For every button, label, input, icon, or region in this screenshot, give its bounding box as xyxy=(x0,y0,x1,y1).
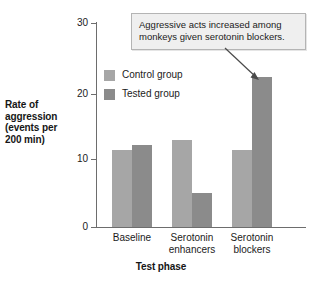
y-tick-label-10: 10 xyxy=(48,154,88,164)
y-tick-mark-0 xyxy=(91,227,96,228)
x-tick-label-serotonin-blockers-line-2: blockers xyxy=(210,244,294,256)
legend-label-tested-group: Tested group xyxy=(122,89,180,99)
bar-chart-figure: Rate of aggression (events per 200 min) … xyxy=(0,0,322,281)
annotation-callout-line-2: monkeys given serotonin blockers. xyxy=(139,31,299,43)
legend-swatch-tested-group-icon xyxy=(104,89,115,100)
x-axis-line xyxy=(96,227,306,228)
y-tick-label-20: 20 xyxy=(48,89,88,99)
plot-area xyxy=(96,22,306,227)
legend-item-control-group: Control group xyxy=(104,67,183,83)
bar-serotonin-blockers-tested-group xyxy=(252,77,272,227)
bar-serotonin-enhancers-tested-group xyxy=(192,193,212,227)
annotation-callout-line-1: Aggressive acts increased among xyxy=(139,19,299,31)
chart-legend: Control group Tested group xyxy=(104,67,183,105)
x-tick-label-serotonin-blockers-line-1: Serotonin xyxy=(210,232,294,244)
y-axis-title-line-4: 200 min) xyxy=(5,134,79,146)
legend-label-control-group: Control group xyxy=(122,70,183,80)
y-tick-label-30: 30 xyxy=(48,18,88,28)
y-axis-title: Rate of aggression (events per 200 min) xyxy=(5,99,79,145)
x-axis-title: Test phase xyxy=(0,261,322,272)
y-axis-title-line-2: aggression xyxy=(5,111,79,123)
x-tick-label-serotonin-blockers: Serotonin blockers xyxy=(210,232,294,255)
legend-item-tested-group: Tested group xyxy=(104,86,183,102)
legend-swatch-control-group-icon xyxy=(104,70,115,81)
y-axis-title-line-3: (events per xyxy=(5,122,79,134)
bar-serotonin-enhancers-control-group xyxy=(172,140,192,227)
y-axis-title-line-1: Rate of xyxy=(5,99,79,111)
y-tick-label-0: 0 xyxy=(48,222,88,232)
bar-baseline-tested-group xyxy=(132,145,152,227)
bar-baseline-control-group xyxy=(112,150,132,227)
annotation-callout: Aggressive acts increased among monkeys … xyxy=(131,13,306,50)
bar-serotonin-blockers-control-group xyxy=(232,150,252,227)
